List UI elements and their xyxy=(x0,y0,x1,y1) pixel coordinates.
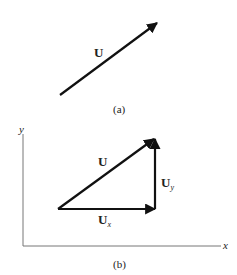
caption-b: (b) xyxy=(113,258,126,271)
vector-u-label: U xyxy=(98,154,108,169)
x-axis-label: x xyxy=(222,239,228,251)
component-uy-label: Uy xyxy=(161,175,174,192)
vector-diagram: U (a) y x U Uy Ux (b) xyxy=(0,0,237,275)
figure-b: y x U Uy Ux (b) xyxy=(18,123,228,271)
vector-u-arrow xyxy=(60,23,157,95)
vector-u-label: U xyxy=(94,45,104,60)
caption-a: (a) xyxy=(113,103,126,116)
vector-u-arrow xyxy=(58,139,154,209)
component-ux-label: Ux xyxy=(98,212,111,229)
y-axis-label: y xyxy=(18,123,24,135)
figure-a: U (a) xyxy=(60,23,157,116)
